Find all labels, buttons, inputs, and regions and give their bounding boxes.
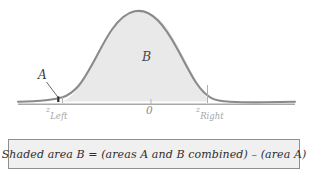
caption-box: Shaded area B = (areas A and B combined)…	[8, 139, 300, 169]
z-right-subscript: Right	[200, 111, 223, 121]
caption-text: Shaded area B = (areas A and B combined)…	[2, 148, 307, 161]
axis-label-zero: 0	[146, 105, 153, 116]
axis-label-z-right: zRight	[196, 106, 224, 122]
figure-container: A B 0 zLeft zRight Shaded area B = (area…	[0, 0, 309, 176]
label-area-b: B	[142, 51, 151, 64]
shaded-area-b	[63, 11, 208, 102]
leader-line-a	[47, 82, 59, 98]
z-left-subscript: Left	[50, 111, 67, 121]
axis-label-z-left: zLeft	[46, 106, 67, 122]
label-area-a: A	[38, 69, 47, 81]
